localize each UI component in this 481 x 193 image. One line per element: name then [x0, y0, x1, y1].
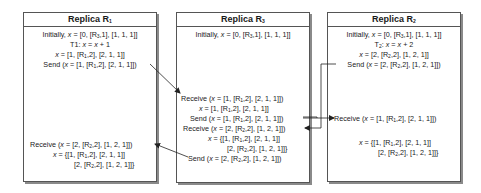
r2-line-merged-1: x = {[1, [R1,2], [2, 1, 1]]: [359, 138, 431, 147]
r2-line-initially: Initially, x = [0, [R3,1], [1, 1, 1]]: [328, 30, 460, 39]
r3-line-merged-1: x = {[1, [R1,2], [2, 1, 1]]: [208, 134, 280, 143]
replica-r2-title-sub: 2: [413, 18, 416, 24]
r1-line-merged-2: [2, [R2,2], [1, 2, 1]]}: [74, 160, 134, 169]
r1-line-merged-1: x = {[1, [R1,2], [2, 1, 1]]: [53, 150, 125, 159]
replica-r2-header: Replica R2: [328, 13, 460, 27]
r1-line-x-value: x = [1, [R1,2], [2, 1, 1]]: [24, 50, 156, 59]
replica-r3-box: Replica R3 Initially, x = [0, [R3,1], [1…: [176, 12, 310, 183]
r1-line-receive: Receive (x = [2, [R2,2], [1, 2, 1]]): [30, 140, 132, 149]
r2-line-merged-2: [2, [R2,2], [1, 2, 1]]}: [378, 148, 438, 157]
r2-line-receive: Receive (x = [1, [R1,2], [2, 1, 1]]): [334, 114, 436, 123]
replica-r1-box: Replica R1 Initially, x = [0, [R3,1], [1…: [23, 12, 157, 182]
r3-line-initially: Initially, x = [0, [R3,1], [1, 1, 1]]: [177, 30, 309, 39]
r2-line-send: Send (x = [2, [R2,2], [1, 2, 1]]): [328, 60, 460, 69]
replica-r1-title-sub: 1: [109, 18, 112, 24]
r3-line-receive-1: Receive (x = [1, [R1,2], [2, 1, 1]]): [181, 94, 283, 103]
replica-r2-box: Replica R2 Initially, x = [0, [R3,1], [1…: [327, 12, 461, 182]
replica-r3-title-sub: 3: [262, 18, 265, 24]
r1-line-t1: T1: x = x + 1: [24, 40, 156, 49]
replica-r3-title: Replica R: [221, 14, 262, 24]
r1-line-initially: Initially, x = [0, [R3,1], [1, 1, 1]]: [24, 30, 156, 39]
replica-r3-header: Replica R3: [177, 13, 309, 27]
replica-r1-title: Replica R: [68, 14, 109, 24]
r3-line-receive-2: Receive (x = [2, [R2,2], [1, 2, 1]]): [183, 124, 285, 133]
replica-r2-title: Replica R: [372, 14, 413, 24]
r2-line-t2: T2: x = x + 2: [328, 40, 460, 49]
r3-line-send-1: Send (x = [1, [R1,2], [2, 1, 1]]): [190, 114, 283, 123]
r3-line-send-2: Send (x = [2, [R2,2], [1, 2, 1]]): [188, 154, 281, 163]
replica-r1-header: Replica R1: [24, 13, 156, 27]
r2-line-x-value: x = [2, [R2,2], [1, 2, 1]]: [328, 50, 460, 59]
r3-line-x-value: x = [1, [R1,2], [2, 1, 1]]: [199, 104, 269, 113]
r3-line-merged-2: [2, [R2,2], [1, 2, 1]]}: [227, 144, 287, 153]
r1-line-send: Send (x = [1, [R1,2], [2, 1, 1]]): [24, 60, 156, 69]
